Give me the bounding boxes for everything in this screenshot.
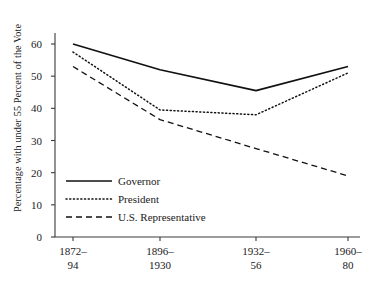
y-tick-label-50: 50 [22,71,42,82]
series-line-governor [73,44,348,91]
data-series-layer [73,44,348,176]
x-tick-label-0: 1872– 94 [38,245,108,272]
y-tick-label-20: 20 [22,168,42,179]
x-tick-label-3-line2: 80 [313,259,374,273]
y-tick-label-40: 40 [22,103,42,114]
y-tick-label-0: 0 [22,232,42,243]
y-tick-label-10: 10 [22,200,42,211]
chart-figure: Percentage with under 55 Percent of the … [0,0,374,281]
x-tick-label-1: 1896– 1930 [125,245,195,272]
x-tick-label-2-line1: 1932– [221,245,291,259]
legend-swatches [66,181,112,217]
series-line-u-s-representative [73,67,348,176]
plot-area [0,0,374,281]
x-tick-label-0-line2: 94 [38,259,108,273]
y-tick-label-30: 30 [22,136,42,147]
x-tick-label-1-line2: 1930 [125,259,195,273]
x-tick-label-3: 1960– 80 [313,245,374,272]
x-tick-label-3-line1: 1960– [313,245,374,259]
x-tick-label-0-line1: 1872– [38,245,108,259]
x-tick-label-2: 1932– 56 [221,245,291,272]
x-tick-label-2-line2: 56 [221,259,291,273]
legend-label-president: President [118,194,159,205]
legend-label-governor: Governor [118,176,160,187]
axis-lines [55,33,360,237]
x-tick-label-1-line1: 1896– [125,245,195,259]
legend-label-us-representative: U.S. Representative [118,212,206,223]
y-tick-label-60: 60 [22,39,42,50]
series-line-president [73,52,348,115]
y-axis-label-container: Percentage with under 55 Percent of the … [0,0,22,245]
